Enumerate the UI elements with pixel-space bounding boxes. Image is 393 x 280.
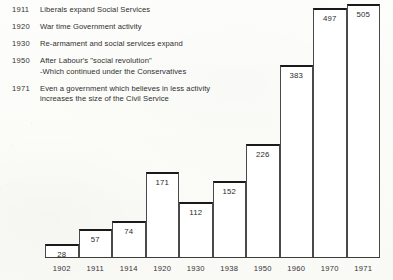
- x-tick-1971: 1971: [347, 259, 381, 279]
- x-tick-1950: 1950: [246, 259, 280, 279]
- bar-value-label: 226: [247, 150, 279, 159]
- bar-value-label: 497: [314, 14, 346, 23]
- bar-value-label: 112: [180, 208, 212, 217]
- x-tick-1914: 1914: [112, 259, 146, 279]
- bar-1970: 497: [313, 8, 347, 258]
- x-tick-1938: 1938: [213, 259, 247, 279]
- bar-1914: 74: [112, 221, 146, 258]
- bar-1911: 57: [79, 229, 113, 258]
- x-tick-1970: 1970: [313, 259, 347, 279]
- bar-value-label: 74: [113, 227, 145, 236]
- bar-value-label: 505: [348, 10, 380, 19]
- x-axis-tick-labels: 1902191119141920193019381950196019701971: [45, 259, 380, 279]
- x-tick-1960: 1960: [280, 259, 314, 279]
- x-axis-baseline: [45, 257, 380, 258]
- bar-1950: 226: [246, 144, 280, 258]
- bar-value-label: 383: [281, 71, 313, 80]
- bar-value-label: 152: [214, 187, 246, 196]
- bar-1938: 152: [213, 181, 247, 258]
- bar-1930: 112: [179, 202, 213, 258]
- bar-1902: 28: [45, 244, 79, 258]
- bar-1920: 171: [146, 172, 180, 258]
- bar-1960: 383: [280, 65, 314, 258]
- x-tick-1902: 1902: [45, 259, 79, 279]
- bar-value-label: 171: [147, 178, 179, 187]
- plot-area: 285774171112152226383497505: [45, 0, 380, 258]
- bar-chart: 285774171112152226383497505 190219111914…: [0, 0, 393, 280]
- bar-1971: 505: [347, 4, 381, 258]
- x-tick-1930: 1930: [179, 259, 213, 279]
- x-tick-1911: 1911: [79, 259, 113, 279]
- bar-value-label: 57: [80, 235, 112, 244]
- x-tick-1920: 1920: [146, 259, 180, 279]
